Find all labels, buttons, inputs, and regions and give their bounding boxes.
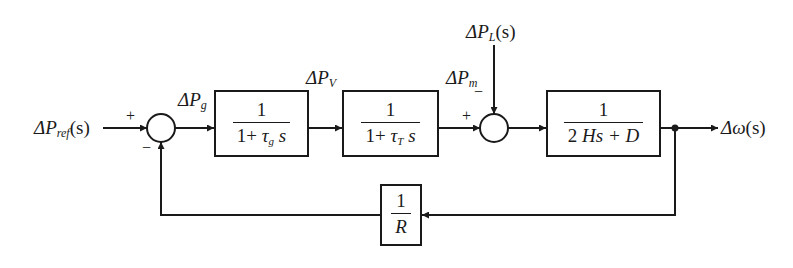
sum2-plus-sign: +	[462, 108, 471, 124]
valve-signal-label: ΔPV	[306, 68, 336, 89]
load-signal-label: ΔPL(s)	[466, 22, 516, 43]
sum1-minus-sign: −	[142, 140, 151, 156]
turbine-block: 1 1+ τT s	[342, 90, 439, 157]
input-signal-label: ΔPref(s)	[34, 118, 90, 139]
output-signal-label: Δω(s)	[721, 118, 766, 137]
mechanical-power-label: ΔPm	[446, 68, 477, 89]
rotating-mass-block: 1 2 Hs + D	[546, 90, 661, 157]
governor-block: 1 1+ τg s	[214, 90, 309, 157]
droop-block: 1 R	[380, 184, 422, 246]
sum2-minus-sign: −	[474, 84, 483, 100]
governor-output-label: ΔPg	[178, 90, 207, 111]
sum1-plus-sign: +	[126, 108, 135, 124]
summing-junction-1	[147, 114, 175, 142]
branch-point	[672, 125, 679, 132]
summing-junction-2	[480, 114, 508, 142]
